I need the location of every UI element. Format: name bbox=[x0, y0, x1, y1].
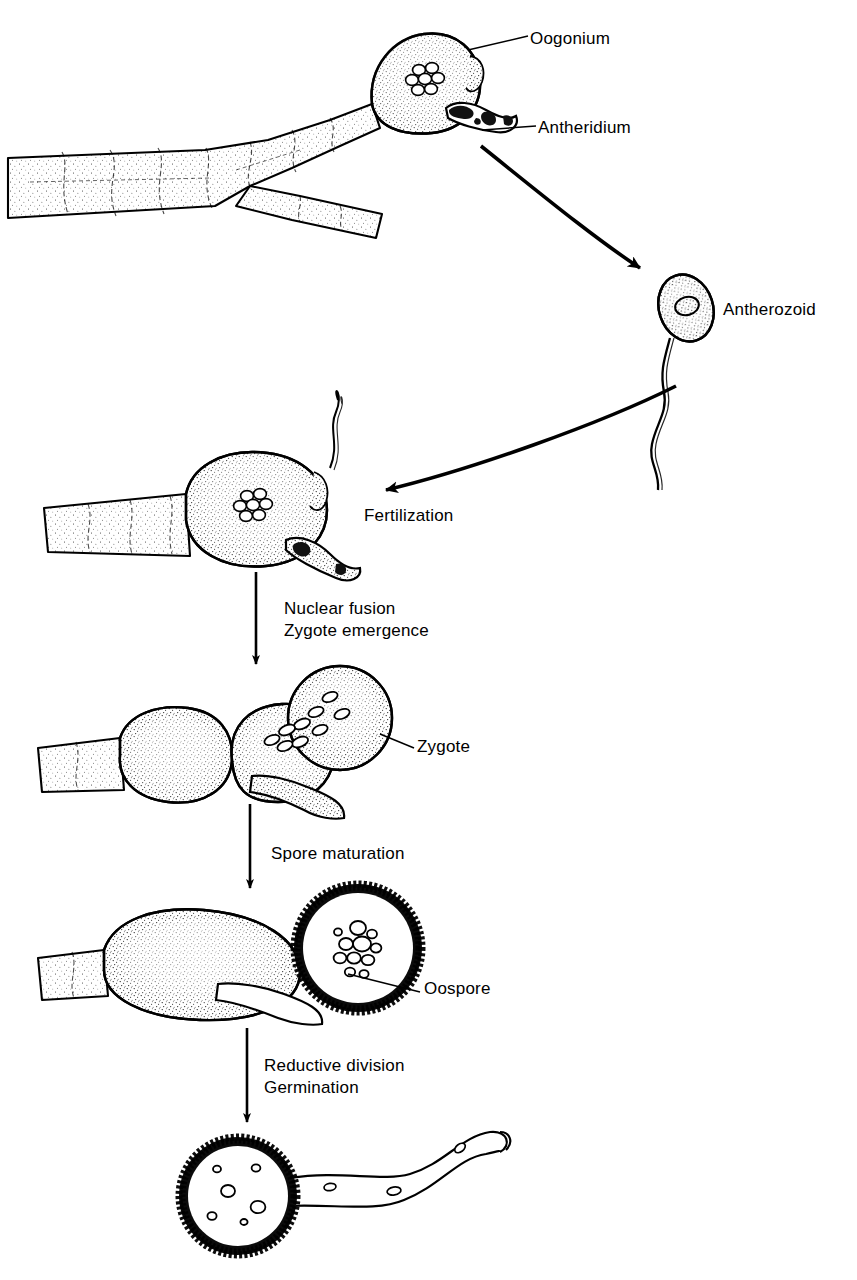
germinating-oospore-body bbox=[179, 1137, 297, 1255]
label-zygote: Zygote bbox=[417, 736, 470, 757]
label-oogonium: Oogonium bbox=[530, 28, 610, 49]
label-zygote-emergence: Zygote emergence bbox=[284, 620, 429, 641]
label-antherozoid: Antherozoid bbox=[723, 299, 816, 320]
stage-5-oospore-group bbox=[38, 884, 422, 1025]
antheridium-shape-2 bbox=[286, 538, 360, 580]
germ-tube-upper bbox=[290, 1132, 507, 1178]
transition-arrow-release bbox=[481, 146, 640, 268]
label-reductive-division: Reductive division bbox=[264, 1055, 405, 1076]
label-germination: Germination bbox=[264, 1077, 359, 1098]
label-oospore: Oospore bbox=[424, 978, 491, 999]
label-spore-maturation: Spore maturation bbox=[271, 843, 405, 864]
antherozoid-flagellum bbox=[651, 338, 670, 490]
stage-3-fertilized-group bbox=[44, 391, 360, 580]
label-fertilization: Fertilization bbox=[364, 505, 454, 526]
label-antheridium: Antheridium bbox=[538, 117, 631, 138]
germ-tube-lower bbox=[288, 1151, 500, 1207]
stage-4-zygote-group bbox=[38, 666, 414, 819]
stage-2-antherozoid-group bbox=[650, 267, 722, 490]
germ-tube-nuclei bbox=[324, 1141, 468, 1196]
stage-6-germination-group bbox=[179, 1132, 510, 1255]
hypha-main bbox=[8, 104, 382, 238]
stage-1-oogonium-group bbox=[8, 33, 536, 238]
life-cycle-diagram: Oogonium Antheridium Antherozoid Fertili… bbox=[0, 0, 857, 1280]
label-nuclear-fusion: Nuclear fusion bbox=[284, 598, 395, 619]
leader-line-oogonium bbox=[468, 36, 528, 50]
transition-arrow-fertilization bbox=[386, 386, 676, 490]
